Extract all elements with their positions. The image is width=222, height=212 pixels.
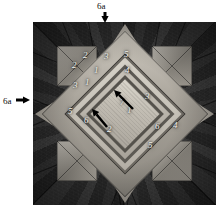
layer-number-n-5c: 5 [148, 141, 153, 150]
layer-number-n-6b: 6 [155, 122, 160, 131]
layer-number-n-5b: 5 [68, 107, 73, 116]
layer-number-n-1b: 1 [85, 78, 90, 87]
left-callout-arrow [8, 92, 38, 108]
layer-number-n-3b: 3 [73, 81, 78, 90]
figure-root: 223514135671326456a6a [0, 0, 222, 212]
layer-number-n-4b: 4 [173, 121, 178, 130]
layer-number-n-2a: 2 [72, 61, 77, 70]
inner-arrow-lower [84, 101, 115, 135]
layer-number-n-4a: 4 [125, 66, 130, 75]
layer-number-n-3a: 3 [104, 52, 109, 61]
layer-number-n-5a: 5 [124, 50, 129, 59]
layer-number-n-1a: 1 [94, 66, 99, 75]
layer-number-n-2b: 2 [83, 51, 88, 60]
top-callout-arrow [97, 4, 113, 31]
layer-number-n-3c: 3 [145, 92, 150, 101]
